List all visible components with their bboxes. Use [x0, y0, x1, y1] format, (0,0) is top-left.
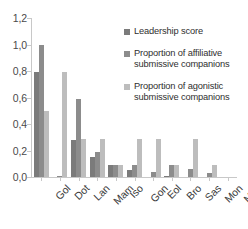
bar	[44, 111, 49, 177]
legend-label: Leadership score	[134, 26, 203, 38]
x-tick-mark	[209, 178, 210, 181]
bar	[193, 139, 198, 177]
bar	[137, 139, 142, 177]
x-tick-mark	[79, 178, 80, 181]
chart-legend: Leadership scoreProportion of affiliativ…	[124, 26, 246, 114]
legend-label: Proportion of affiliative submissive com…	[134, 48, 246, 71]
x-tick-mark	[153, 178, 154, 181]
x-tick-label-mon: Mon	[222, 182, 245, 205]
legend-entry[interactable]: Proportion of affiliative submissive com…	[124, 48, 246, 71]
legend-label: Proportion of agonistic submissive compa…	[134, 81, 246, 104]
x-tick-mark	[135, 178, 136, 181]
x-tick-mark	[41, 178, 42, 181]
y-tick-mark	[27, 18, 31, 19]
legend-swatch-icon	[124, 29, 130, 35]
legend-entry[interactable]: Leadership score	[124, 26, 246, 38]
x-tick-mark	[97, 178, 98, 181]
y-tick-label: 0,8	[13, 65, 27, 77]
bar-group	[52, 18, 67, 177]
legend-swatch-icon	[124, 84, 130, 90]
bar	[174, 165, 179, 177]
y-tick-mark	[27, 98, 31, 99]
bar	[81, 139, 86, 177]
y-tick-label: 0,2	[13, 145, 27, 157]
y-tick-label: 1,2	[13, 12, 27, 24]
legend-swatch-icon	[124, 51, 130, 57]
y-tick-label: 0,6	[13, 92, 27, 104]
bar	[100, 139, 105, 177]
bar	[118, 165, 123, 177]
y-tick-mark	[27, 71, 31, 72]
y-tick-label: 1,0	[13, 39, 27, 51]
x-axis-tick-labels: GolDotLanMamIsoGonEolBroSasMonMag	[32, 180, 237, 229]
x-tick-mark	[116, 178, 117, 181]
x-tick-mark	[60, 178, 61, 181]
bar	[212, 165, 217, 177]
y-tick-mark	[27, 45, 31, 46]
bar-group	[90, 18, 105, 177]
y-tick-mark	[27, 151, 31, 152]
y-tick-label: 0,0	[13, 171, 27, 183]
x-tick-mark	[190, 178, 191, 181]
bar-group	[108, 18, 123, 177]
x-tick-label-lan: Lan	[91, 182, 112, 203]
x-tick-mark	[172, 178, 173, 181]
bar-group	[71, 18, 86, 177]
bar-group	[34, 18, 49, 177]
x-tick-label-eol: Eol	[164, 182, 183, 201]
y-axis: 0,00,20,40,60,81,01,2	[0, 0, 31, 229]
y-tick-mark	[27, 124, 31, 125]
bar	[156, 139, 161, 177]
x-tick-label-gol: Gol	[53, 182, 73, 202]
bar-chart: 0,00,20,40,60,81,01,2 GolDotLanMamIsoGon…	[0, 0, 248, 229]
x-tick-label-dot: Dot	[72, 182, 92, 202]
y-tick-label: 0,4	[13, 118, 27, 130]
legend-entry[interactable]: Proportion of agonistic submissive compa…	[124, 81, 246, 104]
x-tick-label-sas: Sas	[203, 182, 224, 203]
bar	[62, 72, 67, 177]
y-tick-mark	[27, 177, 31, 178]
x-tick-label-bro: Bro	[183, 182, 203, 202]
x-tick-mark	[228, 178, 229, 181]
